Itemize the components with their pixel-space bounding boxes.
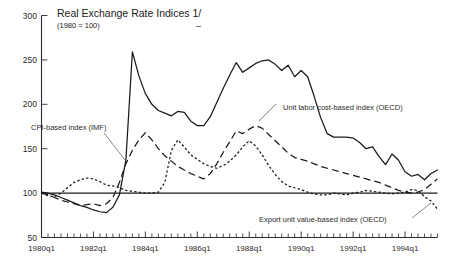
x-tick-label: 1984q1 (132, 244, 159, 253)
x-tick-label: 1980q1 (28, 244, 55, 253)
annotation-cpi-based: CPI-based index (IMF) (31, 123, 107, 132)
y-tick-label: 200 (23, 99, 37, 109)
x-tick-label: 1986q1 (184, 244, 211, 253)
y-tick-label: 300 (23, 11, 37, 21)
x-tick-label: 1990q1 (288, 244, 315, 253)
x-tick-label: 1994q1 (392, 244, 419, 253)
y-tick-label: 50 (28, 233, 38, 243)
leader-line-euv (412, 203, 431, 218)
y-tick-label: 250 (23, 55, 37, 65)
leader-line-ulc (259, 104, 276, 121)
real-exchange-rate-chart: Real Exchange Rate Indices 1/ (1980 = 10… (0, 0, 453, 269)
leader-line-cpi (104, 133, 125, 160)
x-tick-label: 1982q1 (80, 244, 107, 253)
y-tick-label: 100 (23, 188, 37, 198)
x-axis-labels: 1980q11982q11984q11986q11988q11990q11992… (28, 244, 419, 253)
chart-subtitle: (1980 = 100) (57, 21, 100, 30)
annotation-export-unit-value: Export unit value-based index (OECD) (259, 215, 387, 224)
x-tick-label: 1992q1 (340, 244, 367, 253)
page-title: Real Exchange Rate Indices 1/ (57, 7, 201, 19)
x-tick-label: 1988q1 (236, 244, 263, 253)
chart-svg: Real Exchange Rate Indices 1/ (1980 = 10… (0, 0, 453, 269)
x-axis-ticks (42, 232, 438, 238)
y-tick-label: 150 (23, 144, 37, 154)
annotation-unit-labor-cost: Unit labor cost-based index (OECD) (283, 103, 403, 112)
title-dash-mark: – (196, 21, 201, 31)
series-export-unit-value (42, 140, 438, 209)
